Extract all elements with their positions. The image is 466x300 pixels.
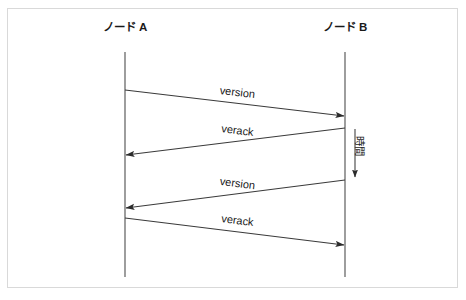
time-axis-annotation: 時間 [354, 129, 366, 177]
message-label-4: verack [221, 212, 255, 228]
message-label-2: verack [221, 122, 255, 138]
message-arrow-version-a-to-b: version [125, 84, 344, 116]
sequence-diagram-figure: ノード A ノード B version verack version verac… [0, 0, 466, 300]
lifeline-label-node-a: ノード A [103, 21, 148, 33]
message-label-3: version [219, 175, 256, 191]
lifeline-label-node-b: ノード B [323, 21, 368, 33]
message-arrow-verack-a-to-b: verack [125, 212, 344, 245]
time-axis-label: 時間 [354, 136, 366, 156]
lifeline-node-a: ノード A [103, 21, 148, 277]
message-arrow-verack-b-to-a: verack [126, 122, 345, 155]
message-arrow-version-b-to-a: version [126, 175, 345, 208]
message-label-1: version [219, 84, 256, 100]
sequence-diagram-canvas: ノード A ノード B version verack version verac… [0, 0, 466, 300]
